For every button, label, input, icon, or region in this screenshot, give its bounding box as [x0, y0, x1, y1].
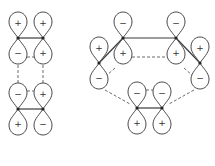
- sign-lower: +: [172, 48, 180, 58]
- sign-lower: +: [14, 119, 22, 129]
- atom-dot: [16, 36, 19, 39]
- sign-upper: −: [172, 18, 180, 28]
- atom-r4: + −: [191, 37, 209, 89]
- sign-lower: −: [39, 119, 47, 129]
- sign-upper: −: [14, 89, 22, 99]
- sign-upper: +: [95, 43, 103, 53]
- sign-lower: −: [95, 73, 103, 83]
- sign-upper: +: [39, 18, 47, 28]
- atom-dot: [198, 61, 201, 64]
- sign-lower: +: [119, 48, 127, 58]
- dashed-left-lower: [105, 90, 130, 104]
- atom-dot: [41, 107, 44, 110]
- sign-lower: +: [133, 118, 141, 128]
- right-diagram: − + − + + − + −: [90, 12, 209, 134]
- atom-dot: [174, 36, 177, 39]
- sign-lower: +: [39, 48, 47, 58]
- sign-upper: +: [196, 43, 204, 53]
- sign-upper: +: [14, 18, 22, 28]
- atom-dot: [41, 36, 44, 39]
- atom-dot: [160, 106, 163, 109]
- dashed-right-lower: [169, 90, 194, 104]
- atom-r3: + −: [90, 37, 108, 89]
- sign-lower: −: [14, 48, 22, 58]
- sign-upper: −: [119, 18, 127, 28]
- atom-dot: [16, 107, 19, 110]
- sign-upper: −: [158, 88, 166, 98]
- sign-upper: −: [133, 88, 141, 98]
- left-diagram: + − + + − + + −: [9, 12, 52, 135]
- sign-lower: +: [158, 118, 166, 128]
- orbital-diagram-canvas: + − + + − + + −: [0, 0, 215, 166]
- atom-dot: [97, 61, 100, 64]
- atom-dot: [121, 36, 124, 39]
- sign-upper: +: [39, 89, 47, 99]
- atom-dot: [135, 106, 138, 109]
- sign-lower: −: [196, 73, 204, 83]
